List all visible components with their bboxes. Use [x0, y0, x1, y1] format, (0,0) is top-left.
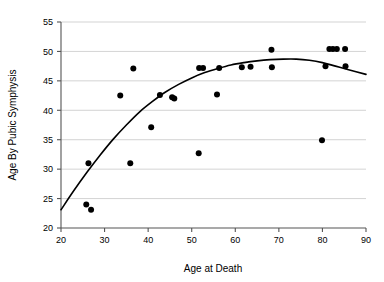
data-point — [239, 64, 245, 70]
y-tick-label-45: 45 — [43, 76, 53, 86]
data-point — [117, 93, 123, 99]
data-point — [85, 160, 91, 166]
y-tick-label-20: 20 — [43, 223, 53, 233]
x-tick-label-30: 30 — [100, 235, 110, 245]
x-tick-label-80: 80 — [317, 235, 327, 245]
x-tick-label-90: 90 — [361, 235, 371, 245]
x-tick-label-40: 40 — [143, 235, 153, 245]
data-point — [157, 92, 163, 98]
gridlines — [61, 22, 366, 199]
data-point — [269, 64, 275, 70]
data-point — [334, 46, 340, 52]
x-tick-label-70: 70 — [274, 235, 284, 245]
plot-canvas: 2030405060708090 2025303540455055 Age at… — [0, 0, 384, 282]
data-point — [200, 65, 206, 71]
x-tick-label-50: 50 — [187, 235, 197, 245]
x-axis-label: Age at Death — [184, 263, 242, 274]
data-point — [216, 65, 222, 71]
data-point — [268, 47, 274, 53]
y-tick-label-40: 40 — [43, 106, 53, 116]
y-tick-label-30: 30 — [43, 164, 53, 174]
y-tick-label-55: 55 — [43, 17, 53, 27]
data-point — [88, 207, 94, 213]
y-axis-label: Age By Pubic Symphysis — [7, 69, 18, 180]
y-tick-label-35: 35 — [43, 135, 53, 145]
data-point — [127, 160, 133, 166]
y-axis-ticks: 2025303540455055 — [43, 17, 61, 233]
y-tick-label-50: 50 — [43, 47, 53, 57]
data-point — [130, 66, 136, 72]
data-point — [343, 63, 349, 69]
data-point — [171, 96, 177, 102]
data-point — [214, 91, 220, 97]
scatter-plot-figure: 2030405060708090 2025303540455055 Age at… — [0, 0, 384, 282]
y-tick-label-25: 25 — [43, 194, 53, 204]
data-point — [322, 63, 328, 69]
x-tick-label-20: 20 — [56, 235, 66, 245]
data-point — [319, 137, 325, 143]
x-axis-ticks: 2030405060708090 — [56, 228, 371, 245]
data-point — [83, 201, 89, 207]
fitted-curve — [61, 59, 366, 210]
data-point — [196, 150, 202, 156]
data-point — [148, 124, 154, 130]
data-point — [248, 64, 254, 70]
x-tick-label-60: 60 — [230, 235, 240, 245]
axis-frame — [61, 22, 366, 228]
data-point — [342, 46, 348, 52]
